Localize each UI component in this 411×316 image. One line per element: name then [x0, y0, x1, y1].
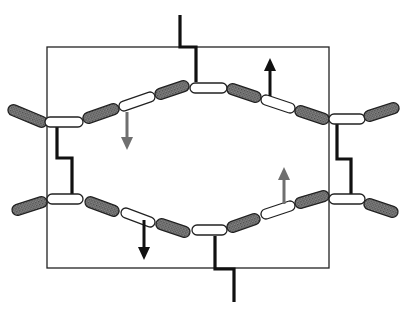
bottom-chain-white-segment	[260, 200, 297, 221]
diagram-canvas	[0, 0, 411, 316]
bottom-chain-white-segment	[120, 207, 157, 229]
top-chain-white-segment	[45, 117, 83, 127]
bottom-chain-shaded-segment	[155, 217, 192, 239]
bottom-chain-shaded-segment	[11, 195, 49, 217]
arrow-down-gray-icon	[121, 112, 133, 150]
bottom-linker	[215, 236, 234, 302]
bottom-chain-white-segment	[47, 194, 83, 204]
left-linker	[57, 127, 72, 194]
bottom-chain-white-segment	[329, 194, 365, 204]
top-chain-shaded-segment	[294, 104, 331, 126]
top-chain-shaded-segment	[81, 102, 120, 125]
top-chain-white-segment	[190, 83, 227, 93]
top-chain-white-segment	[118, 91, 157, 113]
bottom-polymer-chain	[11, 189, 400, 238]
top-chain-shaded-segment	[154, 79, 191, 101]
crosslinkers	[57, 15, 351, 302]
crosslinked-chains-diagram	[0, 0, 411, 316]
top-chain-shaded-segment	[6, 103, 48, 129]
bottom-chain-shaded-segment	[83, 195, 120, 218]
bottom-chain-shaded-segment	[225, 212, 261, 234]
top-polymer-chain	[6, 79, 400, 129]
top-chain-white-segment	[260, 94, 297, 115]
arrow-up-black-icon	[264, 58, 276, 96]
top-chain-shaded-segment	[363, 101, 401, 123]
bottom-chain-white-segment	[192, 225, 227, 235]
right-linker	[337, 124, 351, 194]
bottom-chain-shaded-segment	[363, 197, 400, 219]
bottom-chain-shaded-segment	[294, 189, 331, 209]
arrow-up-gray-icon	[278, 167, 290, 204]
top-linker	[180, 15, 196, 82]
top-chain-white-segment	[329, 114, 365, 124]
top-chain-shaded-segment	[226, 82, 263, 104]
